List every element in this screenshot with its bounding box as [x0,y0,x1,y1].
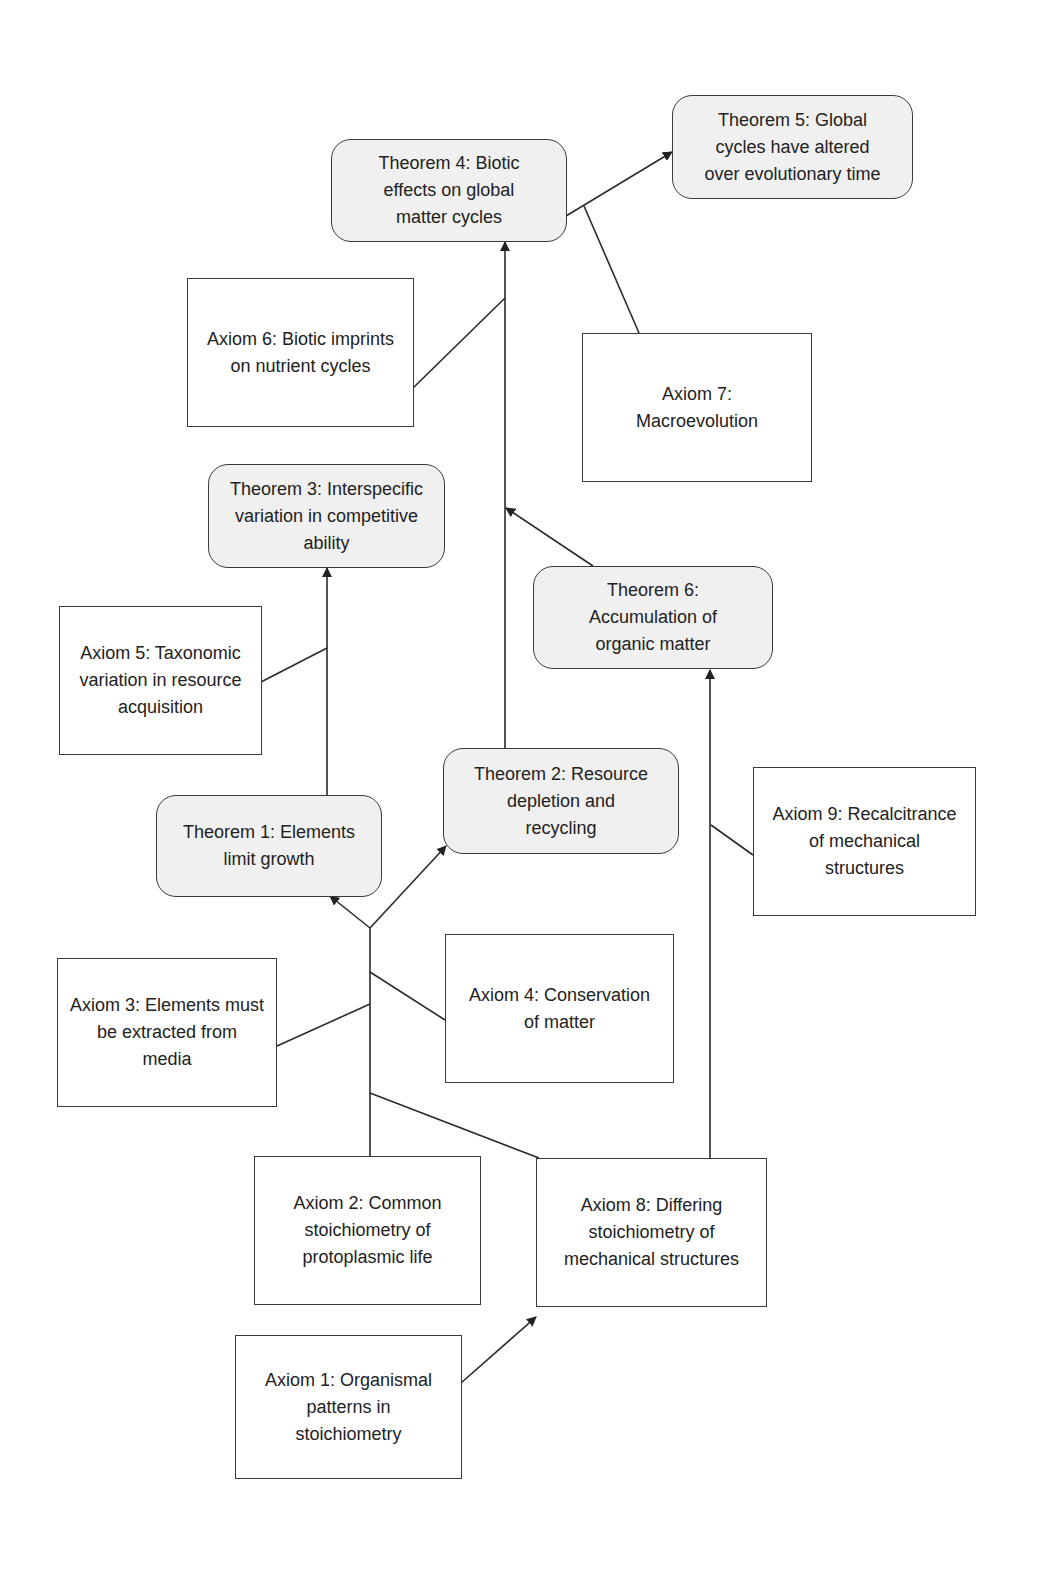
node-line: ability [230,530,423,557]
node-theorem-2: Theorem 2: Resource depletion and recycl… [443,748,679,854]
edge-a8-trunk [370,1093,539,1158]
node-axiom-9: Axiom 9: Recalcitrance of mechanical str… [753,767,976,916]
node-line: stoichiometry [265,1421,432,1448]
node-theorem-6: Theorem 6: Accumulation of organic matte… [533,566,773,669]
node-axiom-4: Axiom 4: Conservation of matter [445,934,674,1083]
node-axiom-7: Axiom 7: Macroevolution [582,333,812,482]
node-axiom-1: Axiom 1: Organismal patterns in stoichio… [235,1335,462,1479]
node-line: stoichiometry of [564,1219,739,1246]
node-line: Axiom 2: Common [293,1190,441,1217]
node-axiom-6: Axiom 6: Biotic imprints on nutrient cyc… [187,278,414,427]
node-line: Axiom 5: Taxonomic [79,640,241,667]
node-line: limit growth [183,846,355,873]
node-axiom-2: Axiom 2: Common stoichiometry of protopl… [254,1156,481,1305]
node-line: Axiom 7: [636,381,758,408]
edge-a7-link [584,206,639,333]
node-theorem-4: Theorem 4: Biotic effects on global matt… [331,139,567,242]
node-line: protoplasmic life [293,1244,441,1271]
node-line: Theorem 6: [589,577,717,604]
node-line: organic matter [589,631,717,658]
node-theorem-1: Theorem 1: Elements limit growth [156,795,382,897]
node-line: Axiom 8: Differing [564,1192,739,1219]
node-theorem-5: Theorem 5: Global cycles have altered ov… [672,95,913,199]
edge-trunk-t1 [330,896,370,928]
node-line: Theorem 4: Biotic [378,150,519,177]
node-line: be extracted from [70,1019,264,1046]
edge-a9-link [711,825,753,855]
edge-t6-link [506,508,593,566]
node-line: Axiom 1: Organismal [265,1367,432,1394]
node-line: mechanical structures [564,1246,739,1273]
node-axiom-8: Axiom 8: Differing stoichiometry of mech… [536,1158,767,1307]
node-line: structures [772,855,956,882]
node-line: Macroevolution [636,408,758,435]
node-theorem-3: Theorem 3: Interspecific variation in co… [208,464,445,568]
axiom-theorem-diagram: Theorem 4: Biotic effects on global matt… [0,0,1046,1582]
edge-a6-link [413,298,505,388]
node-line: variation in competitive [230,503,423,530]
node-line: of matter [469,1009,650,1036]
edge-a3-trunk [277,1004,370,1046]
node-line: Axiom 9: Recalcitrance [772,801,956,828]
node-axiom-5: Axiom 5: Taxonomic variation in resource… [59,606,262,755]
edge-a5-link [261,648,327,682]
node-line: over evolutionary time [704,161,880,188]
node-line: recycling [474,815,648,842]
node-line: stoichiometry of [293,1217,441,1244]
node-axiom-3: Axiom 3: Elements must be extracted from… [57,958,277,1107]
node-line: variation in resource [79,667,241,694]
node-line: cycles have altered [704,134,880,161]
node-line: acquisition [79,694,241,721]
edge-t4-t5 [566,152,672,216]
node-line: Theorem 5: Global [704,107,880,134]
node-line: on nutrient cycles [207,353,394,380]
node-line: Theorem 3: Interspecific [230,476,423,503]
node-line: of mechanical [772,828,956,855]
node-line: depletion and [474,788,648,815]
edge-a4-trunk [370,972,445,1020]
node-line: Theorem 1: Elements [183,819,355,846]
node-line: matter cycles [378,204,519,231]
node-line: effects on global [378,177,519,204]
node-line: patterns in [265,1394,432,1421]
node-line: Theorem 2: Resource [474,761,648,788]
edge-a1-a8 [461,1317,536,1383]
node-line: Axiom 4: Conservation [469,982,650,1009]
node-line: media [70,1046,264,1073]
node-line: Axiom 6: Biotic imprints [207,326,394,353]
node-line: Accumulation of [589,604,717,631]
node-line: Axiom 3: Elements must [70,992,264,1019]
